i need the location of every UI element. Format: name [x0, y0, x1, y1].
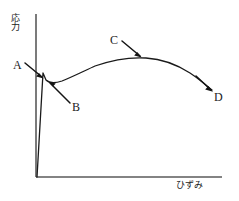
y-axis-label: 応 力 — [11, 14, 20, 33]
stress-strain-curve — [37, 58, 212, 177]
label-point-b: B — [72, 101, 80, 113]
label-point-a: A — [13, 59, 22, 71]
stress-strain-diagram: 応 力 ひずみ A B C D — [0, 0, 239, 201]
arrow-d — [196, 76, 213, 92]
arrow-b — [48, 81, 70, 103]
arrow-a — [25, 63, 44, 78]
y-axis-label-char-2: 力 — [11, 23, 20, 32]
arrow-c — [122, 41, 142, 58]
label-point-d: D — [214, 91, 223, 103]
x-axis-label: ひずみ — [176, 181, 203, 190]
label-point-c: C — [110, 34, 118, 46]
diagram-canvas — [0, 0, 239, 201]
